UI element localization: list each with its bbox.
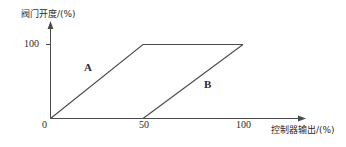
x-axis-arrow-icon: [298, 116, 306, 122]
chart-figure: 阀门开度/(%) 控制器输出/(%) 100 0 50 100 A B: [0, 0, 346, 147]
x-tick-label-100: 100: [236, 119, 251, 130]
y-axis-arrow-icon: [48, 21, 54, 29]
series-b-line: [143, 45, 243, 119]
x-axis-title: 控制器输出/(%): [271, 123, 335, 136]
x-tick-label-50: 50: [139, 119, 149, 130]
origin-tick-label: 0: [42, 119, 47, 130]
y-tick-label-100: 100: [24, 38, 39, 49]
series-a-annotation: A: [84, 61, 92, 73]
series-a-line: [51, 45, 244, 119]
series-b-annotation: B: [204, 78, 211, 90]
y-axis-title: 阀门开度/(%): [21, 7, 76, 20]
